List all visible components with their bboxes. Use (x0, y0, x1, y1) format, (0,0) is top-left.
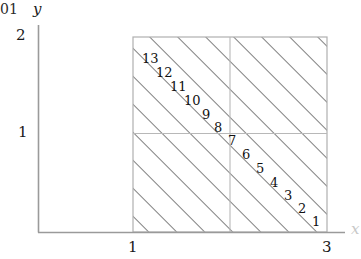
cell-number: 11 (170, 80, 187, 93)
cell-number: 2 (298, 202, 306, 215)
cell-number: 12 (156, 66, 173, 79)
clipped-text-fragment: 01 (0, 2, 18, 16)
cell-number: 10 (184, 94, 201, 107)
x-tick-label-1: 1 (128, 240, 138, 255)
cell-number: 6 (242, 148, 250, 161)
cell-number: 7 (228, 134, 236, 147)
y-tick-label-1: 1 (18, 125, 28, 140)
figure-canvas (0, 0, 361, 259)
x-tick-label-3: 3 (322, 240, 332, 255)
cell-number: 13 (142, 52, 159, 65)
cell-number: 3 (284, 189, 292, 202)
cell-number: 9 (202, 108, 210, 121)
cell-number: 5 (256, 162, 264, 175)
x-axis-label: x (351, 222, 359, 237)
math-figure: 01 y x 2 1 1 3 13121110987654321 (0, 0, 361, 259)
cell-number: 1 (312, 215, 320, 228)
cell-number: 4 (270, 176, 278, 189)
y-axis-label: y (33, 2, 41, 17)
cell-number: 8 (214, 121, 222, 134)
y-tick-label-2: 2 (16, 28, 26, 43)
